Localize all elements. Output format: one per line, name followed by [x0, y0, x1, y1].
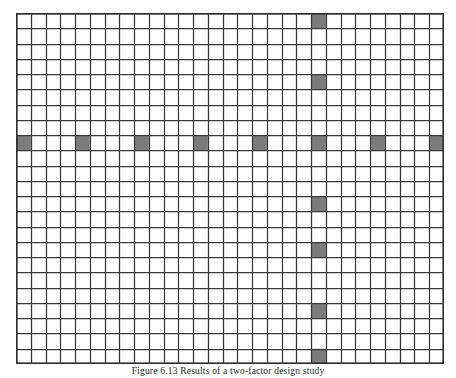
figure-container: Figure 6.13 Results of a two-factor desi…	[0, 0, 456, 378]
figure-caption: Figure 6.13 Results of a two-factor desi…	[0, 366, 456, 377]
grid-canvas	[16, 13, 444, 364]
grid-matrix	[16, 13, 444, 364]
